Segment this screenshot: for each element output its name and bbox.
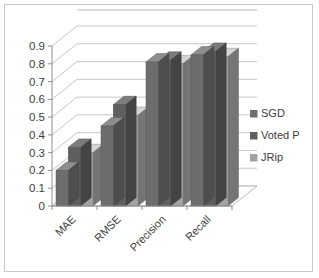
y-tick-label: 0.1	[29, 182, 45, 194]
chart-frame: 00.10.20.30.40.50.60.70.80.9 MAERMSEPrec…	[4, 4, 313, 272]
x-category-label: Recall	[183, 213, 213, 243]
bar-precision-sgd	[146, 54, 169, 206]
x-category-label: RMSE	[92, 213, 123, 244]
y-tick-label: 0.6	[29, 93, 45, 105]
y-tick-label: 0.3	[29, 147, 45, 159]
bars-group	[56, 43, 239, 206]
legend-swatch	[250, 110, 258, 118]
legend-item-jrip[interactable]: JRip	[250, 151, 283, 163]
y-tick-label: 0.4	[29, 129, 46, 141]
x-category-label: MAE	[53, 213, 78, 238]
legend-swatch	[250, 132, 258, 140]
x-category-label: Precision	[127, 213, 167, 253]
x-axis	[52, 206, 232, 210]
bar-mae-sgd	[56, 162, 79, 206]
y-tick-label: 0.9	[29, 40, 45, 52]
y-tick-label: 0.5	[29, 111, 45, 123]
legend-label: JRip	[261, 151, 283, 163]
y-tick-label: 0.7	[29, 76, 45, 88]
y-axis	[48, 46, 52, 206]
y-tick-label: 0	[39, 200, 45, 212]
chart-plot-area: 00.10.20.30.40.50.60.70.80.9 MAERMSEPrec…	[5, 5, 312, 271]
y-tick-label: 0.8	[29, 58, 45, 70]
legend-label: SGD	[261, 107, 285, 119]
legend-label: Voted P	[261, 129, 300, 141]
chart-legend: SGDVoted PJRip	[250, 107, 300, 163]
bar-recall-sgd	[191, 46, 214, 206]
x-axis-category-labels: MAERMSEPrecisionRecall	[53, 213, 213, 253]
bar-rmse-sgd	[101, 118, 124, 206]
y-tick-label: 0.2	[29, 164, 45, 176]
legend-item-voted-p[interactable]: Voted P	[250, 129, 300, 141]
legend-swatch	[250, 154, 258, 162]
bar-chart-svg: 00.10.20.30.40.50.60.70.80.9 MAERMSEPrec…	[5, 5, 312, 271]
y-axis-tick-labels: 00.10.20.30.40.50.60.70.80.9	[29, 40, 46, 212]
legend-item-sgd[interactable]: SGD	[250, 107, 285, 119]
